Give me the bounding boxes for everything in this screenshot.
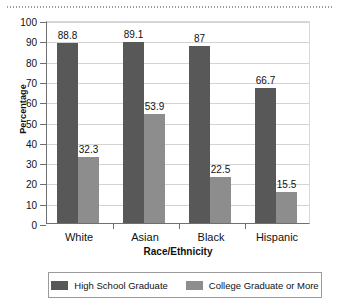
legend-swatch	[51, 281, 68, 290]
bar-value-label: 15.5	[277, 179, 296, 190]
y-axis-tick	[40, 144, 46, 145]
bar-groups: 88.832.389.153.98722.566.715.5	[47, 22, 309, 223]
y-axis-tick-label: 30	[26, 159, 37, 170]
y-axis-tick	[40, 63, 46, 64]
bar	[78, 157, 99, 223]
x-axis-category-label: Asian	[131, 231, 159, 243]
bar-value-label: 87	[194, 33, 205, 44]
bar-value-label: 66.7	[256, 75, 275, 86]
bar-value-label: 89.1	[124, 29, 143, 40]
y-axis-tick	[40, 225, 46, 226]
y-axis-tick-label: 90	[26, 37, 37, 48]
chart-legend: High School GraduateCollege Graduate or …	[48, 272, 322, 298]
x-axis-title: Race/Ethnicity	[46, 246, 310, 257]
y-axis-tick-label: 40	[26, 138, 37, 149]
y-axis-tick-label: 0	[31, 220, 37, 231]
bar-value-label: 22.5	[211, 164, 230, 175]
bar-chart: Percentage 0102030405060708090100 88.832…	[0, 0, 339, 306]
y-axis-tick	[40, 124, 46, 125]
y-axis-tick-label: 70	[26, 77, 37, 88]
x-axis-separator-tick	[113, 223, 114, 229]
y-axis-tick	[40, 22, 46, 23]
y-axis-tick	[40, 205, 46, 206]
bar-value-label: 32.3	[79, 144, 98, 155]
bar	[189, 46, 210, 223]
y-axis-tick	[40, 164, 46, 165]
legend-item: College Graduate or More	[186, 280, 319, 291]
bar	[276, 192, 297, 223]
legend-label: College Graduate or More	[209, 280, 319, 291]
y-axis-tick	[40, 83, 46, 84]
y-axis-tick-label: 50	[26, 118, 37, 129]
x-axis-category-label: Black	[198, 231, 225, 243]
x-axis-separator-tick	[245, 223, 246, 229]
x-axis-separator-tick	[179, 223, 180, 229]
x-axis-category-label: White	[65, 231, 93, 243]
bar	[255, 88, 276, 223]
y-axis-tick-label: 10	[26, 199, 37, 210]
legend-swatch	[186, 281, 203, 290]
y-axis-tick-label: 80	[26, 57, 37, 68]
y-axis-tick	[40, 42, 46, 43]
y-axis-tick-label: 100	[20, 17, 37, 28]
bar	[123, 42, 144, 223]
x-axis-category-label: Hispanic	[256, 231, 298, 243]
legend-label: High School Graduate	[74, 280, 167, 291]
y-axis-tick-label: 20	[26, 179, 37, 190]
plot-area: 0102030405060708090100 88.832.389.153.98…	[46, 21, 310, 224]
bar-value-label: 88.8	[58, 30, 77, 41]
bar-value-label: 53.9	[145, 101, 164, 112]
top-dotted-rule	[6, 6, 333, 8]
bar	[144, 114, 165, 223]
y-axis-tick	[40, 103, 46, 104]
bar	[57, 43, 78, 223]
bar	[210, 177, 231, 223]
y-axis-tick-label: 60	[26, 98, 37, 109]
legend-item: High School Graduate	[51, 280, 167, 291]
y-axis-tick	[40, 184, 46, 185]
